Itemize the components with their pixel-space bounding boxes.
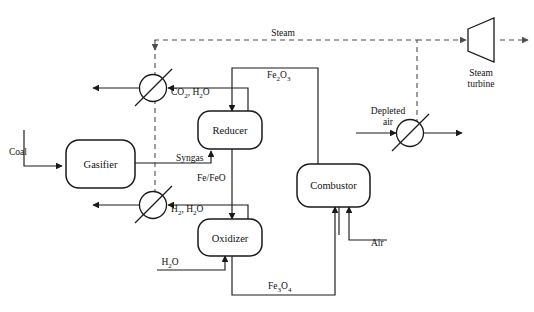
unit-reducer-label: Reducer (213, 125, 248, 136)
unit-reducer[interactable]: Reducer (198, 111, 262, 149)
stream-label-depleted-air-line2: air (383, 117, 394, 127)
unit-oxidizer-label: Oxidizer (212, 233, 249, 244)
svg-text:CO2, H2O: CO2, H2O (171, 87, 210, 100)
co2-h2o-part2: , H (188, 87, 200, 97)
stream-label-depleted-air-line1: Depleted (371, 106, 406, 116)
flowsheet-canvas: Gasifier Reducer Oxidizer Combustor (0, 0, 534, 312)
unit-oxidizer[interactable]: Oxidizer (198, 219, 262, 256)
svg-text:H2, H2O: H2, H2O (171, 204, 204, 217)
h2-h2o-part3: O (197, 204, 204, 214)
h2o-part2: O (172, 257, 179, 267)
stream-label-fe-feo: Fe/FeO (197, 173, 226, 183)
fe3o4-part1: Fe (268, 281, 278, 291)
fe2o3-sub2: 3 (287, 75, 291, 83)
process-flow-diagram: Gasifier Reducer Oxidizer Combustor (0, 0, 534, 312)
stream-label-air: Air (371, 238, 385, 248)
fe3o4-sub2: 4 (288, 286, 292, 294)
steam-turbine-icon[interactable]: Steam turbine (468, 18, 495, 89)
stream-label-water-feed: H2O (161, 257, 178, 270)
stream-coal (24, 130, 62, 166)
stream-label-fe3o4: Fe3O4 (268, 281, 292, 294)
unit-gasifier[interactable]: Gasifier (66, 140, 135, 188)
svg-text:H2O: H2O (161, 257, 178, 270)
stream-air (349, 207, 387, 240)
heat-exchanger-top-icon[interactable] (135, 69, 172, 106)
unit-gasifier-label: Gasifier (84, 159, 118, 170)
co2-h2o-part3: O (203, 87, 210, 97)
steam-turbine-label-line1: Steam (469, 68, 493, 78)
stream-label-h2-h2o: H2, H2O (171, 204, 204, 217)
svg-text:Fe2O3: Fe2O3 (267, 70, 291, 83)
unit-combustor[interactable]: Combustor (297, 164, 370, 207)
svg-text:Fe3O4: Fe3O4 (268, 281, 292, 294)
stream-label-syngas: Syngas (176, 153, 204, 163)
stream-label-co2-h2o: CO2, H2O (171, 87, 210, 100)
co2-h2o-part1: CO (171, 87, 184, 97)
stream-label-coal: Coal (9, 147, 27, 157)
h2-h2o-part2: , H (181, 204, 193, 214)
steam-turbine-label-line2: turbine (468, 79, 495, 89)
heat-exchanger-mid-icon[interactable] (135, 186, 172, 223)
fe2o3-part1: Fe (267, 70, 277, 80)
unit-combustor-label: Combustor (310, 180, 357, 191)
heat-exchanger-right-icon[interactable] (392, 114, 429, 151)
stream-label-steam: Steam (271, 28, 295, 38)
stream-label-fe2o3: Fe2O3 (267, 70, 291, 83)
